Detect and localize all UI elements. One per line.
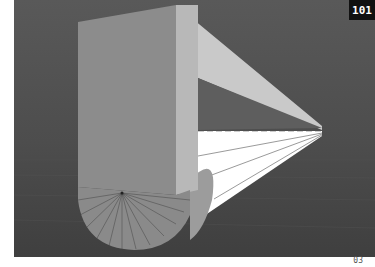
render-image: 101	[14, 0, 375, 257]
figure-number-badge: 101	[349, 0, 375, 20]
perspective-render	[14, 0, 375, 257]
page-number: 03	[353, 256, 363, 265]
